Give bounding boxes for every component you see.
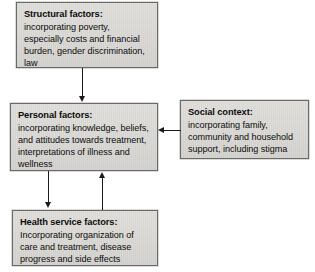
node-health-service-factors-title: Health service factors: [20, 216, 151, 228]
edge-personal-to-health-line [48, 171, 49, 203]
node-social-context-title: Social context: [188, 106, 302, 118]
node-structural-factors-body: incorporating poverty, especially costs … [24, 21, 151, 69]
edge-social-to-personal-line [164, 130, 181, 131]
node-social-context-body: incorporating family, community and hous… [188, 119, 302, 155]
node-personal-factors-title: Personal factors: [18, 109, 151, 121]
edge-personal-to-health-arrowhead-icon [45, 202, 51, 208]
node-health-service-factors: Health service factors: Incorporating or… [12, 210, 158, 266]
node-health-service-factors-body: Incorporating organization of care and t… [20, 229, 151, 265]
node-personal-factors-body: incorporating knowledge, beliefs, and at… [18, 122, 151, 170]
edge-social-to-personal-arrowhead-icon [158, 127, 164, 133]
edge-health-to-personal-line [102, 178, 103, 210]
edge-structural-to-personal-arrowhead-icon [79, 96, 85, 102]
node-structural-factors: Structural factors: incorporating povert… [16, 2, 158, 68]
edge-structural-to-personal-line [82, 68, 83, 97]
node-social-context: Social context: incorporating family, co… [180, 100, 309, 159]
node-structural-factors-title: Structural factors: [24, 8, 151, 20]
edge-health-to-personal-arrowhead-icon [99, 172, 105, 178]
diagram-canvas: Structural factors: incorporating povert… [0, 0, 315, 272]
node-personal-factors: Personal factors: incorporating knowledg… [10, 103, 158, 171]
